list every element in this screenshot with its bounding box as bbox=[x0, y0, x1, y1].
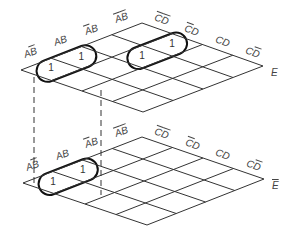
grid-line bbox=[116, 169, 234, 215]
karnaugh-map-diagram bbox=[0, 0, 292, 242]
cell-value: 1 bbox=[48, 63, 54, 73]
grid-line bbox=[85, 158, 203, 204]
grid-line bbox=[147, 179, 264, 225]
grid-line bbox=[143, 66, 263, 112]
grid-line bbox=[142, 137, 264, 179]
grid-line bbox=[113, 55, 233, 101]
cell-value: 1 bbox=[139, 51, 145, 61]
cell-value: 1 bbox=[79, 52, 85, 62]
cell-value: 1 bbox=[80, 165, 86, 175]
variable-e-label: E bbox=[272, 181, 279, 191]
cell-value: 1 bbox=[169, 39, 175, 49]
grid-line bbox=[142, 23, 263, 66]
variable-e-label: E bbox=[271, 68, 278, 78]
cell-value: 1 bbox=[50, 177, 56, 187]
